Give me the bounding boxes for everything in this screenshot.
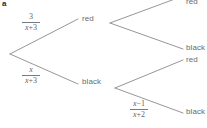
- branch-root-to-red: [10, 19, 78, 54]
- fraction-denominator: x+3: [22, 23, 40, 32]
- probability-label-bottom-right: x−1 x+2: [130, 99, 148, 119]
- fraction-numerator: x: [22, 65, 40, 74]
- node-label-black-1: black: [82, 77, 101, 86]
- probability-label-bottom-left: x x+3: [22, 65, 40, 85]
- fraction-denominator: x+2: [130, 110, 148, 119]
- branch-black-to-black: [115, 88, 183, 113]
- node-label-red-1: red: [82, 14, 94, 23]
- tree-diagram-canvas: a red black red black red black 3 x+3 x …: [0, 0, 207, 128]
- branch-root-to-black: [10, 54, 78, 84]
- leaf-label-black-upper: black: [186, 43, 205, 52]
- fraction-numerator: 3: [22, 12, 40, 21]
- branch-red-to-black: [110, 23, 183, 49]
- fraction-numerator: x−1: [130, 99, 148, 108]
- fraction-denominator: x+3: [22, 76, 40, 85]
- branch-black-to-red: [115, 60, 183, 88]
- leaf-label-black-bottom: black: [186, 107, 205, 116]
- leaf-label-red-top: red: [186, 0, 198, 6]
- branch-red-to-red: [110, 0, 183, 23]
- leaf-label-red-lower: red: [186, 55, 198, 64]
- probability-label-top-left: 3 x+3: [22, 12, 40, 32]
